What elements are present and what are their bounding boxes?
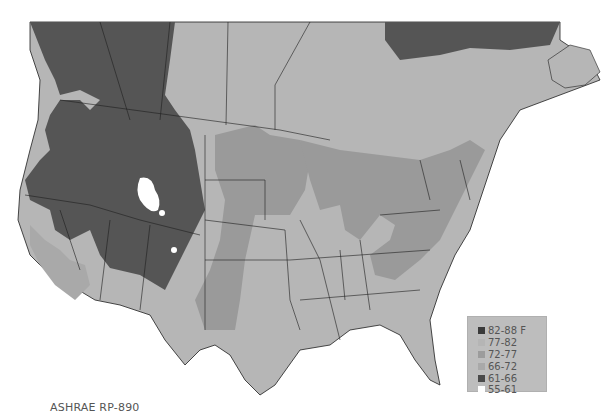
legend-item-66-72: 66-72 [478, 360, 517, 372]
legend-swatch-72-77 [478, 351, 485, 358]
legend-item-72-77: 72-77 [478, 348, 517, 360]
legend-label: 66-72 [488, 361, 517, 372]
legend-swatch-55-61 [478, 386, 485, 393]
legend-item-55-61: 55-61 [478, 383, 517, 395]
legend-label: 82-88 F [488, 325, 526, 336]
legend-swatch-61-66 [478, 375, 485, 382]
legend-label: 55-61 [488, 384, 517, 395]
region-55-61-spot1 [159, 210, 165, 216]
source-caption: ASHRAE RP-890 [50, 401, 140, 414]
legend-item-82-88: 82-88 F [478, 324, 526, 336]
legend-label: 61-66 [488, 373, 517, 384]
legend-swatch-82-88 [478, 327, 485, 334]
region-55-61-spot2 [171, 247, 177, 253]
legend: 82-88 F 77-82 72-77 66-72 61-66 55-61 [467, 316, 547, 392]
legend-swatch-66-72 [478, 363, 485, 370]
legend-label: 72-77 [488, 349, 517, 360]
legend-label: 77-82 [488, 337, 517, 348]
legend-swatch-77-82 [478, 339, 485, 346]
legend-item-77-82: 77-82 [478, 336, 517, 348]
